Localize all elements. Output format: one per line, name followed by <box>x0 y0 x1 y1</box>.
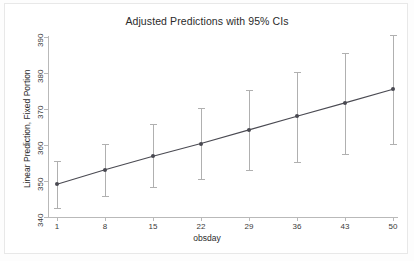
x-tick-mark <box>105 217 106 221</box>
data-point-marker <box>103 168 107 172</box>
error-bar-cap <box>294 162 301 163</box>
y-tick-label: 390 <box>36 34 45 47</box>
error-bar-cap <box>390 144 397 145</box>
error-bar-cap <box>390 35 397 36</box>
x-tick-label: 36 <box>282 222 312 231</box>
error-bar-cap <box>150 187 157 188</box>
error-bar-cap <box>102 144 109 145</box>
data-point-marker <box>199 142 203 146</box>
chart-figure: Adjusted Predictions with 95% CIs 340350… <box>0 0 414 261</box>
data-point-marker <box>247 128 251 132</box>
error-bar-cap <box>246 170 253 171</box>
x-tick-label: 8 <box>90 222 120 231</box>
y-tick-label: 380 <box>36 70 45 83</box>
error-bar-cap <box>150 124 157 125</box>
y-axis-line <box>48 36 49 218</box>
error-bar-cap <box>342 53 349 54</box>
x-tick-mark <box>393 217 394 221</box>
error-bar-cap <box>102 196 109 197</box>
page-title: Adjusted Predictions with 95% CIs <box>0 15 414 27</box>
x-tick-mark <box>297 217 298 221</box>
x-tick-mark <box>249 217 250 221</box>
x-tick-mark <box>201 217 202 221</box>
y-axis-title: Linear Prediction, Fixed Portion <box>22 69 32 188</box>
error-bar-cap <box>246 90 253 91</box>
error-bar-cap <box>198 179 205 180</box>
x-axis-title: obsday <box>0 233 414 243</box>
data-point-marker <box>343 101 347 105</box>
x-tick-label: 29 <box>234 222 264 231</box>
error-bar-cap <box>54 208 61 209</box>
y-tick-label: 350 <box>36 178 45 191</box>
y-tick-label: 360 <box>36 142 45 155</box>
x-tick-mark <box>345 217 346 221</box>
x-tick-label: 50 <box>378 222 408 231</box>
error-bar-cap <box>54 161 61 162</box>
x-tick-label: 22 <box>186 222 216 231</box>
x-tick-mark <box>57 217 58 221</box>
error-bar-cap <box>294 72 301 73</box>
error-bar-cap <box>342 154 349 155</box>
x-tick-label: 43 <box>330 222 360 231</box>
y-tick-label: 370 <box>36 106 45 119</box>
x-tick-label: 15 <box>138 222 168 231</box>
x-tick-mark <box>153 217 154 221</box>
error-bar-cap <box>198 108 205 109</box>
x-tick-label: 1 <box>42 222 72 231</box>
